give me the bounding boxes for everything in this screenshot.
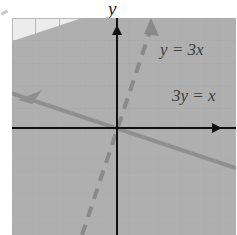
line-label-3y-equals-x: 3y = x <box>172 86 216 106</box>
arrow-right-icon <box>212 123 222 133</box>
arrow-up-right-icon <box>144 18 159 36</box>
corner-tick-mark <box>1 10 9 16</box>
x-axis <box>12 127 236 129</box>
y-axis-label: y <box>108 0 116 20</box>
y-axis <box>116 18 118 235</box>
plot-area: y = 3x 3y = x <box>12 18 236 235</box>
arrow-up-icon <box>112 25 122 35</box>
graph-figure: y x <box>0 0 237 235</box>
line-label-y-equals-3x: y = 3x <box>160 40 204 60</box>
